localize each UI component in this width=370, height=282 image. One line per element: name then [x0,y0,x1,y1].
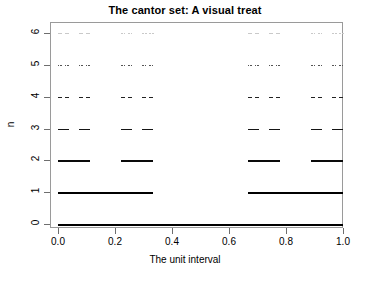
x-axis-title: The unit interval [0,254,370,265]
x-tick-label-0.8: 0.8 [279,236,293,247]
y-tick-label-1: 1 [30,184,41,198]
x-tick-label-0.0: 0.0 [51,236,65,247]
y-axis-title: n [5,122,16,128]
chart-title: The cantor set: A visual treat [0,4,370,16]
y-tick-label-5: 5 [30,56,41,70]
y-tick-4 [44,97,50,98]
x-tick-0.8 [286,228,287,234]
x-tick-0.0 [58,228,59,234]
x-tick-label-0.4: 0.4 [165,236,179,247]
cantor-set-plot: The cantor set: A visual treat n 0123456… [0,0,370,282]
y-tick-label-0: 0 [30,216,41,230]
y-tick-5 [44,65,50,66]
x-tick-label-0.2: 0.2 [108,236,122,247]
y-tick-label-4: 4 [30,88,41,102]
x-tick-0.2 [115,228,116,234]
y-tick-3 [44,129,50,130]
y-tick-label-6: 6 [30,25,41,39]
y-tick-6 [44,33,50,34]
y-tick-label-3: 3 [30,120,41,134]
y-tick-label-2: 2 [30,152,41,166]
x-tick-label-1.0: 1.0 [336,236,350,247]
plot-frame [50,22,343,228]
x-tick-0.4 [172,228,173,234]
x-tick-1.0 [343,228,344,234]
y-tick-1 [44,192,50,193]
y-tick-2 [44,160,50,161]
x-tick-label-0.6: 0.6 [222,236,236,247]
y-tick-0 [44,224,50,225]
x-tick-0.6 [229,228,230,234]
